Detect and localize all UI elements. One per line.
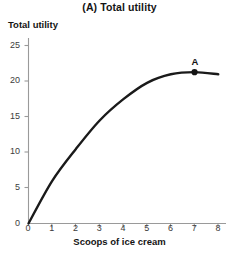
y-tick-label-10: 10 [0, 146, 20, 156]
point-a-label: A [192, 56, 199, 67]
chart-figure: (A) Total utility Total utility [0, 0, 239, 257]
x-tick-label-8: 8 [210, 223, 226, 233]
y-tick-label-20: 20 [0, 75, 20, 85]
x-tick-label-6: 6 [163, 223, 179, 233]
y-tick-label-25: 25 [0, 40, 20, 50]
x-tick-label-7: 7 [186, 223, 202, 233]
x-tick-label-0: 0 [20, 223, 36, 233]
x-tick-label-2: 2 [68, 223, 84, 233]
x-tick-label-4: 4 [115, 223, 131, 233]
x-tick-label-3: 3 [91, 223, 107, 233]
x-tick-label-5: 5 [139, 223, 155, 233]
utility-curve [29, 72, 219, 223]
x-axis-label: Scoops of ice cream [0, 236, 239, 247]
y-tick-label-15: 15 [0, 111, 20, 121]
x-tick-label-1: 1 [44, 223, 60, 233]
y-tick-marks [25, 46, 29, 188]
point-a-marker [191, 69, 197, 75]
y-tick-label-0: 0 [0, 218, 20, 228]
plot-area [0, 0, 239, 257]
y-tick-label-5: 5 [0, 182, 20, 192]
